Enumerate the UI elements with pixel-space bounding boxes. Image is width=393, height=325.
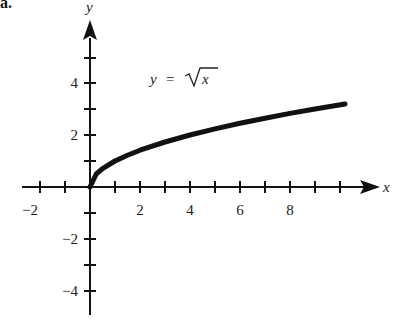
x-axis-label: x [382,179,390,195]
x-tick-label: −2 [22,202,38,218]
sqrt-graph: −2 2 4 6 8 4 2 −2 −4 x y y = x [0,0,393,325]
y-axis-arrow-icon [83,20,97,40]
equation-lhs: y [148,71,157,87]
equation-equals: = [166,71,174,87]
equation-annotation: y = x [148,68,218,87]
y-tick-label: 4 [71,75,79,91]
y-tick-label: −2 [62,231,78,247]
y-axis-label: y [84,0,93,15]
equation-radicand: x [201,71,209,87]
x-tick-label: 6 [236,202,244,218]
y-tick-label: −4 [62,283,78,299]
x-tick-label: 4 [186,202,194,218]
sqrt-curve [90,104,345,187]
x-tick-label: 2 [136,202,144,218]
y-tick-label: 2 [71,127,79,143]
x-tick-label: 8 [286,202,294,218]
